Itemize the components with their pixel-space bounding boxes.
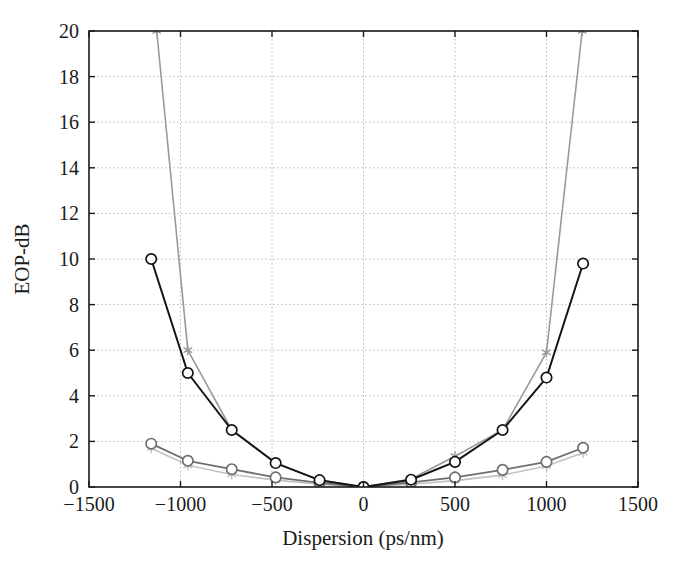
y-tick-label: 18 bbox=[59, 66, 79, 88]
data-point-marker bbox=[578, 443, 588, 453]
data-point-marker bbox=[146, 438, 156, 448]
data-point-marker bbox=[450, 457, 460, 467]
data-point-marker bbox=[314, 475, 324, 485]
x-tick-label: −1500 bbox=[63, 493, 114, 515]
eop-vs-dispersion-chart: 02468101214161820−1500−1000−500050010001… bbox=[0, 0, 681, 569]
y-tick-label: 8 bbox=[69, 294, 79, 316]
x-tick-label: 1500 bbox=[618, 493, 658, 515]
y-tick-label: 2 bbox=[69, 430, 79, 452]
x-tick-label: −500 bbox=[251, 493, 292, 515]
data-point-marker bbox=[406, 475, 416, 485]
y-axis-title: EOP-dB bbox=[10, 223, 34, 294]
data-point-marker bbox=[227, 464, 237, 474]
data-point-marker bbox=[497, 465, 507, 475]
y-tick-label: 14 bbox=[59, 157, 79, 179]
y-tick-label: 20 bbox=[59, 20, 79, 42]
x-axis-title: Dispersion (ps/nm) bbox=[282, 526, 444, 550]
x-tick-label: 0 bbox=[359, 493, 369, 515]
data-point-marker bbox=[541, 457, 551, 467]
y-tick-label: 10 bbox=[59, 248, 79, 270]
y-tick-label: 12 bbox=[59, 202, 79, 224]
data-point-marker bbox=[578, 258, 588, 268]
x-tick-label: 500 bbox=[440, 493, 470, 515]
y-tick-label: 6 bbox=[69, 339, 79, 361]
x-tick-label: 1000 bbox=[527, 493, 567, 515]
chart-figure: 02468101214161820−1500−1000−500050010001… bbox=[0, 0, 681, 569]
data-point-marker bbox=[183, 456, 193, 466]
data-point-marker bbox=[227, 425, 237, 435]
data-point-marker bbox=[183, 368, 193, 378]
data-point-marker bbox=[497, 425, 507, 435]
data-point-marker bbox=[146, 254, 156, 264]
y-tick-label: 16 bbox=[59, 111, 79, 133]
y-tick-label: 4 bbox=[69, 385, 79, 407]
data-point-marker bbox=[541, 372, 551, 382]
data-point-marker bbox=[270, 458, 280, 468]
x-tick-label: −1000 bbox=[155, 493, 206, 515]
